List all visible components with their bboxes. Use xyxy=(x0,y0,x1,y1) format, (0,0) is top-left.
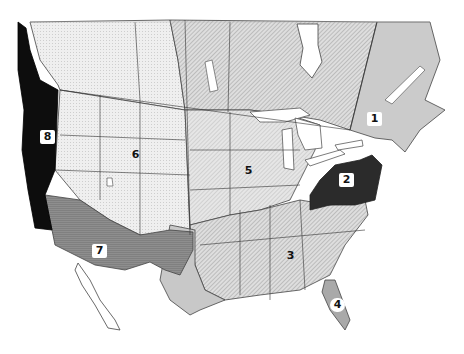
region-label-3: 3 xyxy=(283,249,298,263)
region-label-4: 4 xyxy=(330,298,345,312)
region-label-7: 7 xyxy=(92,244,107,258)
great-salt-lake xyxy=(107,178,113,186)
region-label-2: 2 xyxy=(339,173,354,187)
region-label-1: 1 xyxy=(367,112,382,126)
baja-peninsula xyxy=(75,263,120,330)
north-america-region-map xyxy=(0,0,464,354)
region-label-6: 6 xyxy=(128,148,143,162)
region-label-8: 8 xyxy=(40,130,55,144)
region-label-5: 5 xyxy=(241,164,256,178)
lake-michigan xyxy=(282,128,294,170)
lake-ontario xyxy=(335,140,363,150)
